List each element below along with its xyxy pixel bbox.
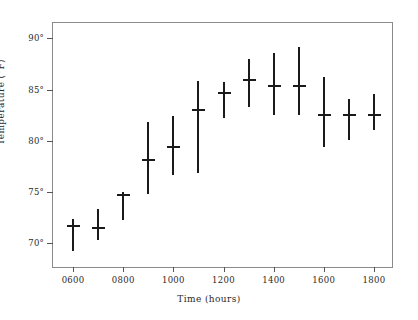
x-tick-label: 0600	[62, 275, 85, 285]
error-bar-whisker	[323, 77, 325, 147]
y-tick-label: 70°	[28, 238, 44, 248]
error-bar-center-cap	[192, 109, 205, 111]
error-bar-center-cap	[142, 159, 155, 161]
error-bar-whisker	[223, 82, 225, 118]
error-bar-center-cap	[318, 114, 331, 116]
y-tick-mark	[47, 243, 53, 244]
x-tick-label: 1200	[212, 275, 235, 285]
x-tick-mark	[123, 267, 124, 272]
error-bar-center-cap	[268, 85, 281, 87]
x-tick-mark	[73, 267, 74, 272]
figure: 70°75°80°85°90° 060008001000120014001600…	[0, 0, 418, 320]
y-tick-label: 80°	[28, 136, 44, 146]
error-bar-center-cap	[92, 227, 105, 229]
error-bar-center-cap	[167, 146, 180, 148]
x-tick-label: 0800	[112, 275, 135, 285]
x-tick-mark	[324, 267, 325, 272]
y-tick-label: 85°	[28, 85, 44, 95]
error-bar-center-cap	[67, 225, 80, 227]
error-bar-center-cap	[218, 92, 231, 94]
x-tick-mark	[274, 267, 275, 272]
error-bar-whisker	[373, 94, 375, 130]
y-tick-mark	[47, 90, 53, 91]
error-bar-center-cap	[243, 79, 256, 81]
x-tick-mark	[173, 267, 174, 272]
error-bar-center-cap	[293, 85, 306, 87]
plot-area: 70°75°80°85°90° 060008001000120014001600…	[52, 22, 393, 268]
y-axis-title: Temperature (°F)	[0, 0, 6, 145]
error-bar-center-cap	[117, 194, 130, 196]
error-bar-whisker	[97, 209, 99, 241]
error-bar-whisker	[122, 192, 124, 220]
x-axis-title: Time (hours)	[0, 294, 418, 304]
error-bar-whisker	[72, 219, 74, 251]
error-bar-whisker	[298, 47, 300, 116]
y-tick-label: 90°	[28, 33, 44, 43]
y-tick-mark	[47, 141, 53, 142]
error-bar-center-cap	[343, 114, 356, 116]
error-bar-whisker	[348, 99, 350, 140]
error-bar-whisker	[147, 122, 149, 194]
x-tick-label: 1400	[262, 275, 285, 285]
error-bar-center-cap	[368, 114, 381, 116]
x-tick-mark	[374, 267, 375, 272]
y-tick-mark	[47, 38, 53, 39]
error-bar-whisker	[197, 81, 199, 172]
y-tick-mark	[47, 192, 53, 193]
error-bar-whisker	[248, 59, 250, 107]
x-tick-label: 1800	[363, 275, 386, 285]
y-tick-label: 75°	[28, 187, 44, 197]
x-tick-label: 1000	[162, 275, 185, 285]
x-tick-mark	[224, 267, 225, 272]
x-tick-label: 1600	[312, 275, 335, 285]
